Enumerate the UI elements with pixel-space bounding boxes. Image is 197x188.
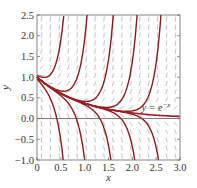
slope-mark [104,41,105,46]
slope-mark [95,33,96,38]
slope-mark [86,41,87,46]
slope-mark [122,41,123,46]
slope-mark [59,16,60,21]
slope-mark [59,25,60,30]
slope-mark [130,81,131,86]
slope-field-chart: 00.51.01.52.02.53.0−1.0−0.50.00.51.01.52… [0,0,197,188]
slope-mark [59,145,60,150]
slope-mark [121,73,122,78]
slope-mark [139,145,140,150]
slope-mark [77,41,78,46]
slope-mark [139,97,141,102]
slope-mark [174,129,176,134]
slope-mark [122,49,123,54]
slope-mark [57,82,61,85]
slope-mark [104,145,105,150]
slope-mark [50,105,51,110]
slope-mark [112,121,114,126]
slope-mark [148,41,149,46]
slope-mark [41,121,42,126]
slope-mark [77,57,78,62]
slope-mark [40,89,42,94]
slope-mark [50,49,51,54]
y-tick-label: 2.5 [21,10,34,21]
slope-mark [139,89,141,94]
slope-mark [166,89,168,94]
slope-mark [121,137,122,142]
slope-mark [50,25,51,30]
slope-mark [175,153,176,158]
slope-mark [174,106,177,110]
slope-mark [121,121,124,126]
slope-mark [112,129,114,134]
slope-mark [85,89,88,93]
slope-mark [175,49,176,54]
y-tick-label: −1.0 [15,155,34,166]
slope-mark [58,97,61,101]
slope-mark [94,73,95,78]
slope-mark [59,137,60,142]
slope-mark [111,98,114,102]
slope-mark [50,113,51,118]
slope-mark [86,49,87,54]
slope-mark [67,73,69,78]
slope-mark [50,57,52,62]
slope-mark [68,121,69,126]
slope-mark [122,33,123,38]
x-tick-label: 2.5 [150,162,163,173]
slope-mark [41,113,42,118]
slope-mark [166,57,167,62]
slope-mark [50,137,51,142]
slope-mark [148,49,149,54]
slope-mark [139,65,140,70]
slope-mark [166,41,167,46]
slope-mark [148,153,149,158]
slope-mark [156,122,159,126]
slope-mark [50,121,51,126]
slope-mark [77,49,78,54]
slope-mark [50,41,51,46]
slope-mark [58,65,60,70]
slope-mark [112,73,113,78]
slope-mark [130,57,131,62]
slope-mark [120,114,124,117]
slope-mark [104,153,105,158]
slope-mark [174,97,176,102]
slope-mark [157,65,158,70]
slope-mark [122,57,123,62]
slope-mark [104,57,105,62]
slope-mark [86,153,87,158]
slope-mark [104,33,105,38]
slope-mark [95,41,96,46]
slope-mark [49,65,51,70]
x-tick-label: 3.0 [173,162,186,173]
slope-mark [41,145,42,150]
slope-mark [174,122,178,126]
slope-mark [95,49,96,54]
slope-mark [148,145,149,150]
slope-mark [102,98,106,102]
slope-mark [139,137,140,142]
slope-mark [175,73,176,78]
slope-mark [112,137,113,142]
slope-mark [86,145,87,150]
slope-mark [121,129,123,134]
slope-mark [41,16,42,21]
slope-mark [67,113,69,118]
y-tick-label: 2.0 [21,30,34,41]
solution-curves [37,15,180,160]
slope-mark [40,57,42,62]
slope-mark [121,65,122,70]
slope-mark [166,129,168,134]
slope-mark [175,81,176,86]
slope-mark [59,113,60,118]
slope-mark [68,145,69,150]
slope-mark [68,49,69,54]
slope-mark [59,57,60,62]
slope-mark [77,153,78,158]
slope-mark [86,137,87,142]
slope-mark [41,105,42,110]
slope-mark [58,73,61,78]
slope-mark [104,49,105,54]
y-tick-label: 1.0 [21,72,34,83]
